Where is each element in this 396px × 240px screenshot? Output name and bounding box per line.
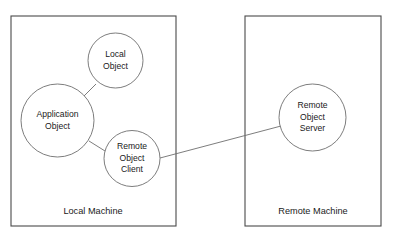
diagram-canvas: Local Object Application Object Remote O… [0, 0, 396, 240]
machine-label-local: Local Machine [63, 206, 122, 216]
architecture-diagram: Local Object Application Object Remote O… [0, 0, 396, 240]
node-label-remote-object-client-line2: Object [120, 153, 145, 163]
node-label-local-object-line1: Local [105, 49, 126, 59]
node-label-remote-object-server-line2: Object [300, 112, 325, 122]
machine-label-remote: Remote Machine [278, 206, 347, 216]
node-label-local-object-line2: Object [103, 61, 128, 71]
node-label-application-object-line2: Object [45, 121, 70, 131]
node-label-remote-object-client-line3: Client [121, 164, 144, 174]
node-label-remote-object-client-line1: Remote [117, 141, 147, 151]
node-label-remote-object-server-line3: Server [300, 123, 325, 133]
node-label-application-object-line1: Application [36, 109, 78, 119]
node-label-remote-object-server-line1: Remote [297, 100, 327, 110]
